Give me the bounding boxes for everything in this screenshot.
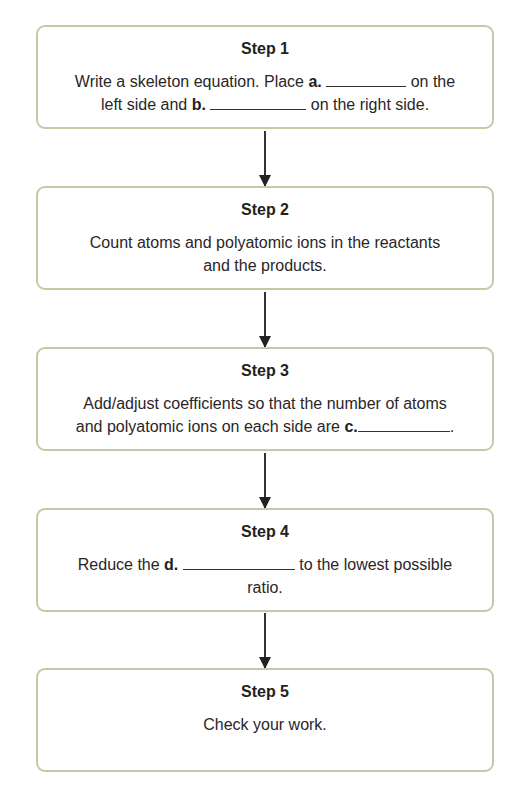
- step-5-title: Step 5: [38, 682, 492, 702]
- step-4-text-part: Reduce the: [78, 556, 164, 573]
- arrow-step1-to-step2: [264, 131, 266, 186]
- step-2-text-part: and the products.: [203, 257, 327, 274]
- step-5-text-part: Check your work.: [203, 716, 327, 733]
- step-3-text: Add/adjust coefficients so that the numb…: [44, 392, 486, 438]
- step-1-text-part: Write a skeleton equation. Place: [75, 73, 309, 90]
- step-1-title: Step 1: [38, 39, 492, 59]
- step-1-text-part: on the right side.: [306, 96, 429, 113]
- arrow-step3-to-step4: [264, 453, 266, 508]
- step-5-box: Step 5 Check your work.: [36, 668, 494, 772]
- blank-b[interactable]: [210, 95, 306, 110]
- step-4-text: Reduce the d. to the lowest possible rat…: [44, 553, 486, 599]
- step-4-box: Step 4 Reduce the d. to the lowest possi…: [36, 508, 494, 612]
- step-3-text-part: .: [450, 418, 454, 435]
- arrow-step4-to-step5: [264, 613, 266, 668]
- step-2-text-part: Count atoms and polyatomic ions in the r…: [90, 234, 440, 251]
- blank-label-a: a.: [308, 73, 321, 90]
- step-3-box: Step 3 Add/adjust coefficients so that t…: [36, 347, 494, 451]
- step-3-text-part: and polyatomic ions on each side are: [76, 418, 345, 435]
- blank-a[interactable]: [326, 72, 406, 87]
- step-4-text-part: to the lowest possible: [295, 556, 452, 573]
- step-5-text: Check your work.: [44, 713, 486, 736]
- step-2-title: Step 2: [38, 200, 492, 220]
- step-3-title: Step 3: [38, 361, 492, 381]
- blank-d[interactable]: [183, 555, 295, 570]
- step-4-text-part: ratio.: [247, 579, 283, 596]
- blank-c[interactable]: [358, 417, 450, 432]
- step-4-title: Step 4: [38, 522, 492, 542]
- step-1-text-part: left side and: [101, 96, 192, 113]
- blank-label-c: c.: [344, 418, 357, 435]
- step-2-box: Step 2 Count atoms and polyatomic ions i…: [36, 186, 494, 290]
- blank-label-b: b.: [192, 96, 206, 113]
- blank-label-d: d.: [164, 556, 178, 573]
- step-1-box: Step 1 Write a skeleton equation. Place …: [36, 25, 494, 129]
- step-1-text-part: on the: [406, 73, 455, 90]
- arrow-step2-to-step3: [264, 292, 266, 347]
- step-3-text-part: Add/adjust coefficients so that the numb…: [83, 395, 446, 412]
- step-2-text: Count atoms and polyatomic ions in the r…: [44, 231, 486, 277]
- step-1-text: Write a skeleton equation. Place a. on t…: [44, 70, 486, 116]
